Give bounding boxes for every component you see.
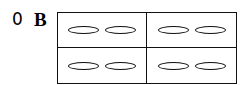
ellipse-icon xyxy=(68,26,99,34)
ellipse-grid xyxy=(57,12,237,84)
index-label: 0 xyxy=(12,11,23,28)
grid-cell-bottom-left xyxy=(58,48,147,83)
grid-cell-bottom-right xyxy=(147,48,236,83)
ellipse-icon xyxy=(105,26,136,34)
ellipse-icon xyxy=(68,62,99,70)
ellipse-icon xyxy=(158,26,189,34)
panel-label: B xyxy=(34,10,47,29)
grid-cell-top-left xyxy=(58,13,147,48)
grid-cell-top-right xyxy=(147,13,236,48)
ellipse-icon xyxy=(105,62,136,70)
ellipse-icon xyxy=(195,26,226,34)
ellipse-icon xyxy=(158,62,189,70)
ellipse-icon xyxy=(195,62,226,70)
